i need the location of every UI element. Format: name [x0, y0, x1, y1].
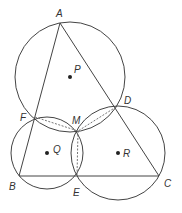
center-r-dot: [116, 151, 120, 155]
center-q-dot: [45, 151, 49, 155]
label-r: R: [123, 148, 130, 159]
center-p-dot: [68, 75, 72, 79]
label-b: B: [9, 181, 16, 192]
label-e: E: [73, 187, 80, 198]
label-c: C: [164, 178, 172, 189]
label-d: D: [124, 95, 131, 106]
segment-me: [77, 131, 78, 176]
label-q: Q: [53, 144, 61, 155]
label-a: A: [55, 8, 63, 19]
label-f: F: [20, 112, 27, 123]
label-p: P: [74, 64, 81, 75]
triangle-abc: [19, 23, 159, 176]
geometry-diagram: A B C D E F M P Q R: [0, 0, 182, 213]
label-m: M: [72, 115, 81, 126]
